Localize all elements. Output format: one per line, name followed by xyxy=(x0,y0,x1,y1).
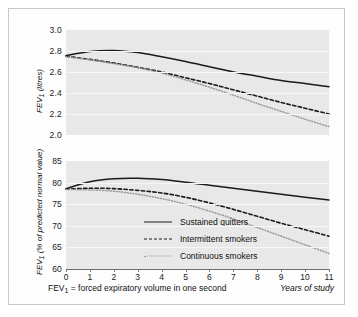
legend: Sustained quitters Intermittent smokers … xyxy=(144,213,257,264)
x-axis-tick-label: 3 xyxy=(135,272,140,282)
y-axis-tick-label: 80 xyxy=(52,178,62,188)
y-axis-tick-label: 70 xyxy=(52,221,62,231)
gridline xyxy=(66,247,329,248)
plot-area-bottom: Sustained quitters Intermittent smokers … xyxy=(66,161,329,269)
y-axis-label-bottom: FEV1 (% of predicted normal value) xyxy=(35,149,44,275)
gridline xyxy=(66,93,329,94)
x-axis-tick-label: 6 xyxy=(207,272,212,282)
y-axis-tick-label: 65 xyxy=(52,242,62,252)
legend-label: Continuous smokers xyxy=(180,251,257,261)
x-axis-tick-label: 7 xyxy=(231,272,236,282)
series-line-dotted xyxy=(66,57,329,127)
y-axis-tick-label: 75 xyxy=(52,199,62,209)
x-axis-tick-label: 9 xyxy=(279,272,284,282)
gridline xyxy=(66,183,329,184)
gridline xyxy=(66,72,329,73)
y-axis-tick-label: 2.2 xyxy=(50,109,62,119)
gridline xyxy=(66,51,329,52)
x-axis-tick-label: 8 xyxy=(255,272,260,282)
y-axis-tick-label: 2.8 xyxy=(50,46,62,56)
caption-definition: FEV1 = forced expiratory volume in one s… xyxy=(48,283,226,293)
y-axis-tick-label: 85 xyxy=(52,156,62,166)
legend-line-solid-icon xyxy=(144,218,172,226)
legend-label: Intermittent smokers xyxy=(180,234,257,244)
x-axis-tick-label: 11 xyxy=(325,272,334,282)
caption-x-axis-title: Years of study xyxy=(280,283,334,293)
legend-item-continuous-smokers: Continuous smokers xyxy=(144,247,257,264)
y-axis-tick-label: 3.0 xyxy=(50,25,62,35)
gridline xyxy=(66,204,329,205)
y-axis-tick-label: 2.6 xyxy=(50,67,62,77)
chart-fev1-litres: FEV1 (litres) 2.02.22.42.62.83.0 xyxy=(9,9,346,144)
x-axis-tick-label: 4 xyxy=(159,272,164,282)
series-line-solid xyxy=(66,178,329,200)
chart-fev1-percent: FEV1 (% of predicted normal value) Susta… xyxy=(9,147,346,277)
x-axis-tick-label: 1 xyxy=(88,272,93,282)
x-axis-tick-label: 0 xyxy=(64,272,69,282)
legend-line-dashed-icon xyxy=(144,235,172,243)
legend-item-intermittent-smokers: Intermittent smokers xyxy=(144,230,257,247)
figure-panel: FEV1 (litres) 2.02.22.42.62.83.0 FEV1 (%… xyxy=(8,8,345,305)
x-axis-tick-label: 10 xyxy=(300,272,309,282)
x-axis-line xyxy=(66,269,329,270)
x-axis-tick-label: 5 xyxy=(183,272,188,282)
x-axis-tick-label: 2 xyxy=(111,272,116,282)
gridline xyxy=(66,114,329,115)
y-axis-tick-label: 2.4 xyxy=(50,88,62,98)
plot-area-top: 2.02.22.42.62.83.0 xyxy=(66,30,329,135)
caption: FEV1 = forced expiratory volume in one s… xyxy=(9,283,346,303)
y-axis-label-top: FEV1 (litres) xyxy=(35,69,44,113)
curve-group-top xyxy=(66,30,329,135)
gridline xyxy=(66,226,329,227)
legend-item-sustained-quitters: Sustained quitters xyxy=(144,213,257,230)
legend-line-dotted-icon xyxy=(144,252,172,260)
series-line-dashed xyxy=(66,56,329,114)
y-axis-tick-label: 60 xyxy=(52,264,62,274)
y-axis-tick-label: 2.0 xyxy=(50,130,62,140)
